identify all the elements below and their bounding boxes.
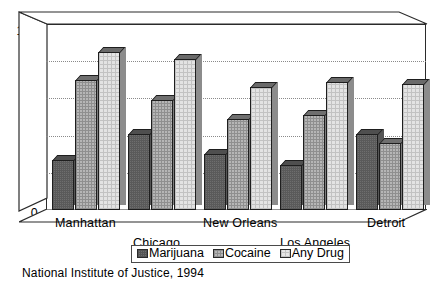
bar-manhattan-cocaine [75, 80, 97, 210]
bar-manhattan-anydrug [98, 52, 120, 210]
legend-item-marijuana: Marijuana [137, 247, 204, 260]
bar-new-orleans-cocaine [227, 119, 249, 210]
legend-swatch-marijuana [137, 249, 148, 258]
bar-new-orleans-anydrug [250, 87, 272, 210]
bar-group-new-orleans [204, 24, 276, 210]
legend-swatch-anydrug [280, 249, 291, 258]
bar-detroit-cocaine [379, 143, 401, 210]
bar-los-angeles-marijuana [280, 165, 302, 210]
bar-group-detroit [356, 24, 428, 210]
legend-swatch-cocaine [213, 249, 224, 258]
x-label-detroit: Detroit [367, 216, 405, 230]
bar-chicago-anydrug [174, 59, 196, 210]
bar-group-chicago [128, 24, 200, 210]
bar-los-angeles-anydrug [326, 82, 348, 210]
left-wall-3d [19, 12, 47, 211]
bar-group-manhattan [52, 24, 124, 210]
legend-label-marijuana: Marijuana [149, 247, 204, 260]
bar-new-orleans-marijuana [204, 154, 226, 210]
legend: Marijuana Cocaine Any Drug [131, 245, 350, 263]
bar-group-los-angeles [280, 24, 352, 210]
bar-detroit-marijuana [356, 134, 378, 210]
bar-chicago-cocaine [151, 100, 173, 210]
bar-chicago-marijuana [128, 134, 150, 210]
bar-chart: 100 80 60 40 20 0 [0, 0, 447, 285]
bars-layer [46, 24, 426, 210]
x-label-new-orleans: New Orleans [203, 216, 277, 230]
bar-manhattan-marijuana [52, 160, 74, 210]
source-caption: National Institute of Justice, 1994 [22, 266, 204, 280]
x-label-manhattan: Manhattan [55, 216, 116, 230]
legend-item-cocaine: Cocaine [213, 247, 271, 260]
bar-los-angeles-cocaine [303, 115, 325, 210]
legend-label-anydrug: Any Drug [292, 247, 344, 260]
bar-detroit-anydrug [402, 84, 424, 210]
legend-label-cocaine: Cocaine [225, 247, 271, 260]
legend-item-anydrug: Any Drug [280, 247, 344, 260]
